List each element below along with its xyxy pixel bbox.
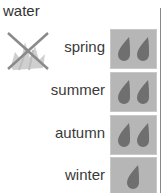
- water-drop-icon: [137, 37, 150, 61]
- water-drop-icon: [118, 123, 131, 147]
- water-drop-icon: [118, 80, 131, 104]
- season-label: winter: [65, 166, 105, 183]
- divider-line: [160, 8, 161, 193]
- water-heading: water: [3, 2, 40, 19]
- season-label: summer: [51, 81, 105, 98]
- water-drop-icon: [118, 37, 131, 61]
- season-row-spring: spring: [0, 29, 162, 69]
- season-label: spring: [64, 38, 105, 55]
- water-level-box: [110, 115, 157, 155]
- season-row-winter: winter: [0, 157, 162, 193]
- water-drop-icon: [137, 80, 150, 104]
- water-drop-icon: [127, 165, 140, 189]
- water-level-box: [110, 29, 157, 69]
- water-level-box: [110, 157, 157, 193]
- season-row-summer: summer: [0, 72, 162, 112]
- season-label: autumn: [55, 124, 105, 141]
- season-row-autumn: autumn: [0, 115, 162, 155]
- water-level-box: [110, 72, 157, 112]
- water-drop-icon: [137, 123, 150, 147]
